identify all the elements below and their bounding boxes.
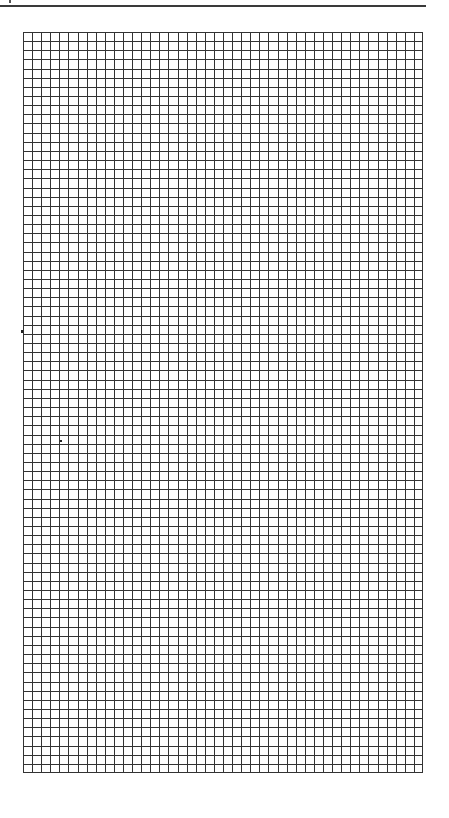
stray-mark-interior <box>60 440 62 442</box>
corner-mark <box>9 0 11 3</box>
header-rule <box>0 5 426 7</box>
grid-lines <box>24 33 422 772</box>
stray-mark-left-edge <box>21 330 23 333</box>
graph-paper-grid <box>23 32 423 773</box>
